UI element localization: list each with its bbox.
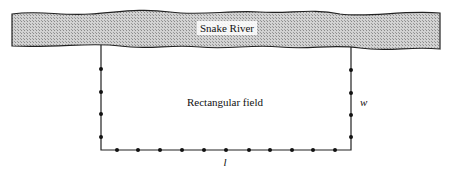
river-label: Snake River	[200, 22, 254, 34]
length-label: l	[223, 156, 226, 168]
width-label: w	[360, 96, 368, 108]
river-field-diagram: Snake River Rectangular field w l	[0, 0, 454, 174]
fence-posts	[99, 67, 353, 152]
field-label: Rectangular field	[187, 96, 264, 108]
snake-river: Snake River	[12, 10, 440, 49]
